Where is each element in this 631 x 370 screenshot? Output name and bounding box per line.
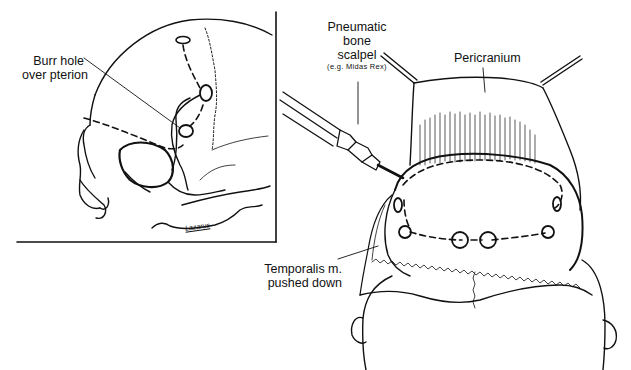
temporalis-label-line1: Temporalis m. — [250, 262, 342, 276]
burr-hole-leader-line — [84, 58, 180, 128]
burr-hole-label-line2: over pterion — [22, 68, 84, 82]
skull-lateral-drawing — [78, 19, 272, 228]
pneumatic-scalpel-drawing — [280, 82, 403, 178]
pericranium-label: Pericranium — [454, 51, 521, 65]
scalpel-label-line1: Pneumatic — [302, 20, 412, 34]
scalpel-example-label: (e.g. Midas Rex) — [302, 62, 412, 71]
scalpel-label-line3: scalpel — [302, 48, 412, 62]
burr-hole-label-line1: Burr hole — [22, 54, 84, 68]
scalpel-label-line2: bone — [302, 34, 412, 48]
temporalis-label-line2: pushed down — [250, 276, 342, 290]
burr-hole-label: Burr hole over pterion — [22, 54, 84, 82]
cranium-superior-drawing — [352, 53, 617, 370]
pneumatic-scalpel-label: Pneumatic bone scalpel (e.g. Midas Rex) — [302, 20, 412, 71]
left-panel-frame — [17, 12, 276, 242]
temporalis-label: Temporalis m. pushed down — [250, 262, 342, 290]
